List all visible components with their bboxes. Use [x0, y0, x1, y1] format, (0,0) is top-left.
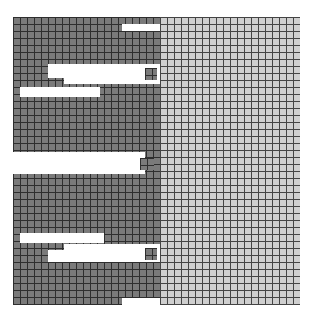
- light-top-left-edge: [155, 10, 165, 17]
- upper-island: [145, 68, 157, 80]
- lower-island: [145, 248, 157, 260]
- light-region: [160, 17, 300, 305]
- slot-lower-2b: [48, 250, 160, 262]
- bottom-right-notch: [122, 298, 160, 305]
- mid-slot: [8, 152, 145, 174]
- top-right-notch: [122, 24, 160, 31]
- right-top-notch: [300, 17, 311, 24]
- slot-upper-2: [20, 87, 100, 97]
- mid-island: [140, 158, 154, 170]
- slot-lower-1: [20, 233, 104, 243]
- mesh-diagram: [0, 0, 311, 324]
